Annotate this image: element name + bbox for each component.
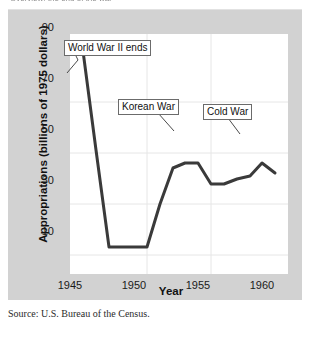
figure-caption-strip: Overview: the end of the war bbox=[8, 0, 302, 10]
plot-area bbox=[70, 34, 288, 274]
x-axis-title: Year bbox=[62, 285, 280, 297]
y-tick-10: 10 bbox=[28, 226, 54, 237]
horizontal-gridlines bbox=[70, 102, 288, 255]
annotation-korean-war: Korean War bbox=[118, 99, 179, 115]
y-tick-50: 50 bbox=[28, 124, 54, 135]
y-tick-30: 30 bbox=[28, 175, 54, 186]
chart-panel: Appropriations (billions of 1975 dollars… bbox=[8, 10, 302, 300]
data-line bbox=[83, 51, 275, 247]
annotation-cold-war: Cold War bbox=[203, 104, 252, 120]
vertical-gridlines bbox=[147, 34, 211, 274]
y-tick-90: 90 bbox=[28, 22, 54, 33]
source-note: Source: U.S. Bureau of the Census. bbox=[8, 308, 302, 319]
annotation-world-war-ii-ends: World War II ends bbox=[64, 40, 151, 56]
figure-caption-text: Overview: the end of the war bbox=[10, 0, 302, 2]
y-tick-70: 70 bbox=[28, 73, 54, 84]
figure-container: Overview: the end of the war Appropriati… bbox=[0, 0, 310, 340]
chart-svg bbox=[70, 34, 288, 274]
